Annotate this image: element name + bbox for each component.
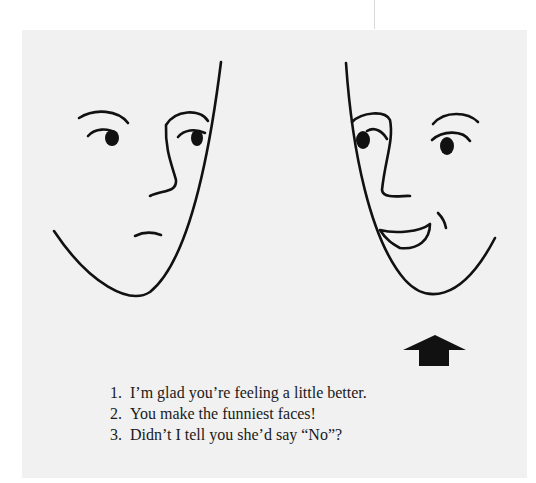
caption-number: 1. — [110, 382, 130, 403]
left-face-mouth — [135, 233, 161, 236]
left-face-left-pupil — [105, 130, 119, 146]
left-face-right-pupil — [191, 130, 203, 146]
right-face-right-pupil — [440, 137, 454, 155]
up-arrow-icon — [403, 335, 466, 366]
right-face-dimple — [438, 213, 446, 228]
left-face-jaw-line — [54, 62, 221, 296]
caption-item: 2.You make the funniest faces! — [110, 403, 367, 424]
left-face-left-eyebrow — [79, 112, 128, 123]
caption-text: I’m glad you’re feeling a little better. — [130, 384, 367, 401]
caption-number: 3. — [110, 424, 130, 445]
right-face-smile — [380, 224, 430, 248]
right-face-right-eyebrow — [433, 114, 478, 124]
caption-item: 3.Didn’t I tell you she’d say “No”? — [110, 424, 367, 445]
caption-text: Didn’t I tell you she’d say “No”? — [130, 426, 342, 443]
caption-item: 1.I’m glad you’re feeling a little bette… — [110, 382, 367, 403]
right-face — [346, 63, 495, 294]
right-face-jaw-line — [346, 63, 495, 294]
right-face-nose-brow — [352, 113, 410, 196]
caption-list: 1.I’m glad you’re feeling a little bette… — [110, 382, 367, 445]
left-face — [54, 62, 221, 296]
caption-text: You make the funniest faces! — [130, 405, 316, 422]
right-face-left-eyelid — [367, 129, 387, 139]
right-face-left-pupil — [356, 131, 370, 149]
caption-number: 2. — [110, 403, 130, 424]
